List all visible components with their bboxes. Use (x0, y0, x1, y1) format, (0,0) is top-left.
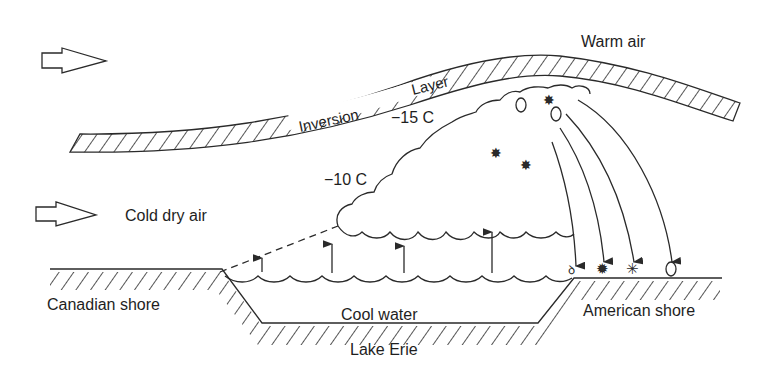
inversion-layer (70, 55, 740, 152)
lake-effect-diagram: ✸ ✸ ✸ ꝺ ✹ ✳ Inversion Layer (0, 0, 771, 380)
ice-crystal-icon: ✳ (626, 260, 639, 278)
cool-water-label: Cool water (341, 307, 417, 323)
temp-minus-15-label: −15 C (391, 110, 434, 126)
boundary-dashed (220, 226, 338, 272)
hail-icon (666, 262, 676, 276)
snowflake-icon: ✹ (596, 260, 609, 278)
water-surface (225, 276, 572, 282)
warm-air-label: Warm air (581, 34, 645, 50)
cold-dry-air-label: Cold dry air (125, 208, 207, 224)
snowflake-icon: ✸ (520, 157, 532, 173)
graupel-icon: ꝺ (568, 263, 575, 277)
snowflake-icon: ✸ (490, 145, 502, 161)
snowflake-icon: ✸ (543, 92, 555, 108)
american-shore-label: American shore (583, 303, 695, 319)
lake-erie-label: Lake Erie (350, 342, 418, 358)
wind-arrow-icon (36, 202, 96, 226)
canadian-shore-label: Canadian shore (47, 297, 160, 313)
temp-minus-10-label: −10 C (324, 172, 367, 188)
hail-icon (516, 98, 526, 112)
hail-icon (551, 107, 561, 121)
wind-arrow-icon (42, 48, 106, 73)
